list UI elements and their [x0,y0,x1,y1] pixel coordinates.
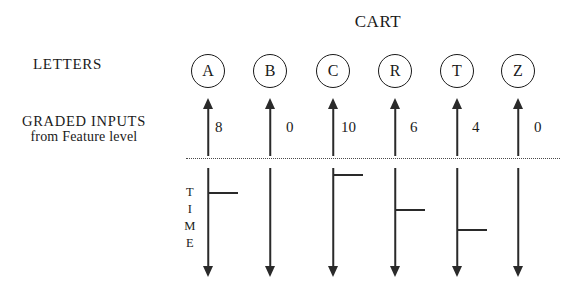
letter-node-b-label: B [265,62,276,80]
input-arrow-head-z [513,98,523,109]
time-axis-label: T I M E [184,184,196,252]
input-arrow-stem-b [269,107,271,156]
letter-node-t-label: T [452,62,462,80]
graded-inputs-row-label: GRADED INPUTS from Feature level [22,113,146,145]
time-arrow-stem-b [269,168,271,266]
letter-node-b[interactable]: B [253,54,287,88]
letter-node-c[interactable]: C [316,54,350,88]
graded-input-value-r: 6 [410,119,418,136]
time-tick-r [395,209,425,211]
input-arrow-head-t [452,98,462,109]
letter-node-a[interactable]: A [191,54,225,88]
time-arrow-head-a [203,266,213,277]
letter-node-r[interactable]: R [378,54,412,88]
input-arrow-stem-c [332,107,334,156]
time-arrow-head-b [265,266,275,277]
time-arrow-head-c [328,266,338,277]
time-tick-a [208,192,238,194]
letter-node-c-label: C [328,62,339,80]
graded-input-value-t: 4 [472,119,480,136]
input-arrow-head-r [390,98,400,109]
input-arrow-head-b [265,98,275,109]
time-arrow-stem-a [207,168,209,266]
input-arrow-stem-r [394,107,396,156]
time-letter-3: E [184,235,196,252]
region-divider [186,158,560,159]
input-arrow-stem-z [517,107,519,156]
graded-input-value-c: 10 [341,119,356,136]
time-arrow-head-t [452,266,462,277]
time-letter-0: T [184,184,196,201]
diagram-title: CART [355,12,402,32]
time-tick-c [333,174,363,176]
graded-input-value-b: 0 [286,119,294,136]
time-letter-2: M [184,218,196,235]
time-tick-t [457,229,487,231]
graded-input-value-z: 0 [534,119,542,136]
time-arrow-stem-t [456,168,458,266]
graded-inputs-line2: from Feature level [22,129,146,145]
letter-node-a-label: A [202,62,214,80]
input-arrow-stem-t [456,107,458,156]
letters-row-label: LETTERS [33,56,102,73]
letter-node-z[interactable]: Z [501,54,535,88]
input-arrow-stem-a [207,107,209,156]
graded-inputs-line1: GRADED INPUTS [22,113,146,129]
time-arrow-stem-c [332,168,334,266]
time-letter-1: I [184,201,196,218]
time-arrow-stem-r [394,168,396,266]
time-arrow-stem-z [517,168,519,266]
time-arrow-head-r [390,266,400,277]
graded-input-value-a: 8 [215,119,223,136]
input-arrow-head-a [203,98,213,109]
cart-diagram: CART LETTERS GRADED INPUTS from Feature … [0,0,570,294]
input-arrow-head-c [328,98,338,109]
letter-node-t[interactable]: T [440,54,474,88]
letter-node-z-label: Z [513,62,523,80]
letter-node-r-label: R [390,62,401,80]
time-arrow-head-z [513,266,523,277]
